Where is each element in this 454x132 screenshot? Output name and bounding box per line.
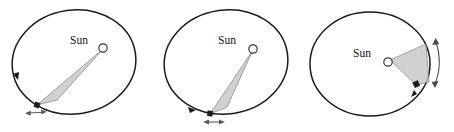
elliptical-orbit-path xyxy=(5,2,142,122)
orbit-panel-right: Sun xyxy=(304,0,454,132)
orbit-panel-middle: Sun xyxy=(152,0,304,132)
sun-label: Sun xyxy=(353,47,371,59)
velocity-arrow-icon xyxy=(203,119,225,124)
orbit-panel-left: Sun xyxy=(0,0,152,132)
swept-area-sector xyxy=(390,44,429,85)
orbit-direction-arrow-icon xyxy=(411,90,417,97)
planet-marker xyxy=(207,111,213,117)
sun-label: Sun xyxy=(70,34,88,46)
sweep-arc-arrow-icon xyxy=(432,38,440,88)
sun-marker xyxy=(249,45,257,53)
kepler-second-law-figure: Sun Sun Sun xyxy=(0,0,454,132)
swept-area-sector xyxy=(37,49,103,105)
swept-area-sector xyxy=(210,50,253,114)
sun-label: Sun xyxy=(218,34,236,46)
sun-marker xyxy=(384,58,392,66)
velocity-arrow-icon xyxy=(25,110,47,116)
sun-marker xyxy=(99,44,107,52)
